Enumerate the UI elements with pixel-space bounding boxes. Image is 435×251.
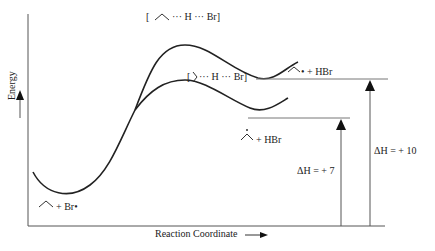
ts-secondary-bracket: [ — [187, 72, 190, 82]
delta-h-secondary-label: ΔH = + 7 — [297, 166, 334, 176]
y-axis-arrowhead-icon — [16, 90, 24, 100]
ts-primary-label: ··· H ··· Br] — [172, 12, 220, 22]
y-axis-label: Energy — [6, 71, 17, 100]
energy-curve-secondary — [135, 80, 288, 110]
energy-curve-primary — [33, 45, 298, 194]
product-primary-label: • + HBr — [301, 67, 332, 77]
product-secondary-label: + HBr — [256, 135, 281, 145]
x-axis-label: Reaction Coordinate — [155, 229, 237, 239]
radical-dot-icon — [246, 129, 248, 131]
ts-secondary-skeleton-icon — [193, 72, 197, 82]
product-secondary-skeleton-icon — [241, 134, 253, 140]
delta-h-secondary-arrowhead-icon — [336, 119, 346, 130]
ts-primary-skeleton-icon — [155, 14, 169, 20]
ts-secondary-label: ··· H ··· Br] — [199, 72, 247, 82]
energy-diagram — [0, 0, 435, 251]
propane-skeleton-icon — [39, 201, 53, 207]
delta-h-primary-label: ΔH = + 10 — [374, 146, 416, 156]
reactants-label: + Br• — [56, 202, 78, 212]
x-axis-arrowhead-icon — [260, 232, 268, 238]
delta-h-primary-arrowhead-icon — [365, 80, 375, 91]
ts-primary-bracket: [ — [146, 12, 149, 22]
